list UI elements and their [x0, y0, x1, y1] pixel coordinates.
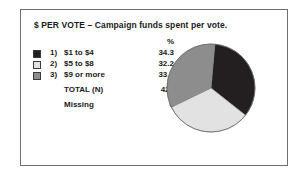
legend-label-1: $1 to $4 [64, 48, 94, 57]
legend-swatch-2 [33, 61, 41, 69]
figure-screen: $ PER VOTE – Campaign funds spent per vo… [0, 0, 308, 182]
pie-chart [165, 42, 257, 134]
legend-swatch-1 [33, 50, 41, 58]
legend-number-1: 1) [50, 48, 57, 57]
legend-label-3: $9 or more [64, 70, 105, 79]
pie-slices [167, 44, 255, 132]
chart-frame: $ PER VOTE – Campaign funds spent per vo… [20, 9, 288, 166]
legend-label-2: $5 to $8 [64, 59, 94, 68]
legend-number-3: 3) [50, 70, 57, 79]
total-label: TOTAL (N) [64, 85, 103, 94]
legend-swatch-3 [33, 72, 41, 80]
page-title: $ PER VOTE – Campaign funds spent per vo… [34, 20, 227, 30]
missing-label: Missing [64, 100, 94, 109]
legend-number-2: 2) [50, 59, 57, 68]
